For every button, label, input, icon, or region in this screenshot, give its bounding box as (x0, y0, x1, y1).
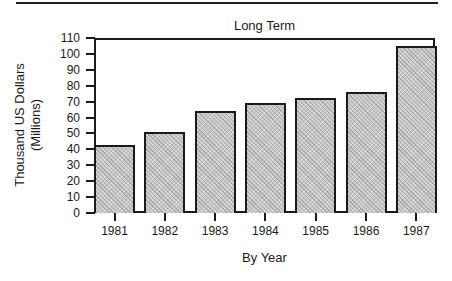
y-tick-label: 100 (40, 48, 80, 60)
bar-1983 (195, 111, 236, 213)
bar-1984 (245, 103, 286, 213)
x-tick (214, 213, 216, 221)
x-tick-label: 1987 (391, 224, 441, 238)
y-tick-label: 90 (40, 64, 80, 76)
y-tick-label: 80 (40, 80, 80, 92)
x-tick (114, 213, 116, 221)
x-tick (365, 213, 367, 221)
x-tick-label: 1985 (291, 224, 341, 238)
bar-1981 (94, 145, 135, 213)
y-axis-title-line-1: Thousand US Dollars (12, 45, 28, 205)
x-tick-label: 1982 (140, 224, 190, 238)
y-tick-label: 30 (40, 159, 80, 171)
x-tick-label: 1983 (190, 224, 240, 238)
y-tick-label: 40 (40, 143, 80, 155)
bar-1987 (396, 46, 437, 213)
bar-1986 (346, 92, 387, 213)
x-tick (315, 213, 317, 221)
bar-1985 (295, 98, 336, 213)
y-tick-label: 10 (40, 191, 80, 203)
bar-1982 (144, 132, 185, 213)
y-tick-label: 50 (40, 127, 80, 139)
y-tick-label: 60 (40, 112, 80, 124)
x-tick (164, 213, 166, 221)
y-tick-label: 70 (40, 96, 80, 108)
x-tick (415, 213, 417, 221)
x-tick-label: 1981 (90, 224, 140, 238)
y-tick-label: 0 (40, 207, 80, 219)
x-tick (264, 213, 266, 221)
x-axis-title: By Year (94, 250, 435, 265)
x-tick-label: 1986 (341, 224, 391, 238)
x-tick-label: 1984 (240, 224, 290, 238)
y-tick-label: 20 (40, 175, 80, 187)
top-rule (16, 2, 438, 4)
y-tick-label: 110 (40, 32, 80, 44)
chart-title: Long Term (94, 18, 435, 33)
